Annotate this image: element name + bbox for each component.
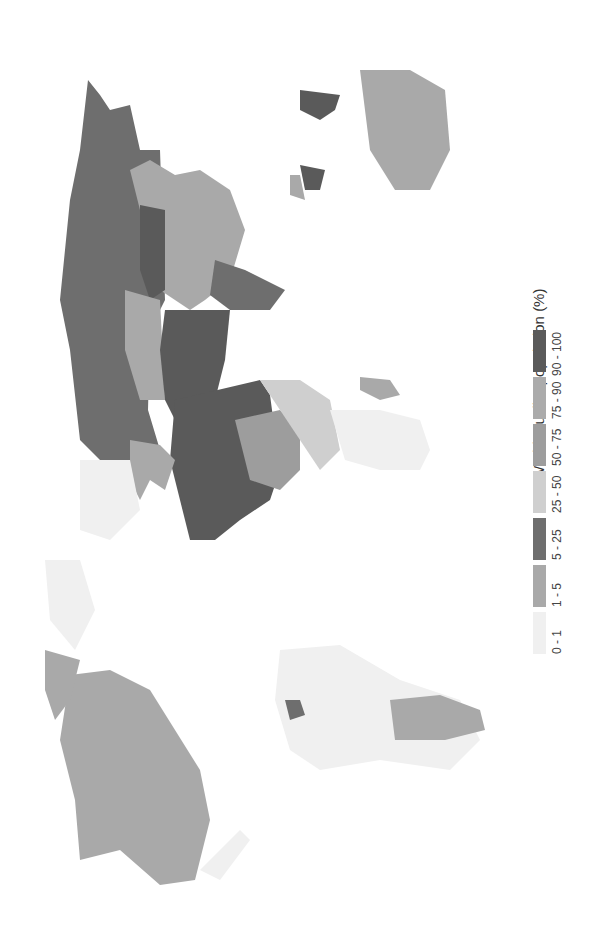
legend-label-4: 50 - 75 bbox=[550, 429, 564, 466]
region-malaysia bbox=[300, 165, 325, 190]
legend-label-6: 90 - 100 bbox=[550, 332, 564, 376]
legend-label-2: 5 - 25 bbox=[550, 529, 564, 560]
region-europe-west bbox=[80, 460, 140, 540]
region-madagascar bbox=[360, 377, 400, 400]
legend-swatch-1 bbox=[533, 565, 546, 607]
legend-swatch-4 bbox=[533, 424, 546, 466]
legend-swatch-2 bbox=[533, 518, 546, 560]
legend-swatch-5 bbox=[533, 377, 546, 419]
legend-swatch-6 bbox=[533, 330, 546, 372]
legend-swatch-3 bbox=[533, 471, 546, 513]
world-map bbox=[0, 0, 613, 944]
region-australia bbox=[360, 70, 450, 190]
legend-label-1: 1 - 5 bbox=[550, 583, 564, 607]
region-india bbox=[210, 260, 285, 310]
region-indonesia bbox=[300, 90, 340, 120]
legend-swatch-0 bbox=[533, 612, 546, 654]
legend-label-0: 0 - 1 bbox=[550, 630, 564, 654]
legend-label-5: 75 - 90 bbox=[550, 382, 564, 419]
region-central-america bbox=[200, 830, 250, 880]
region-europe bbox=[130, 440, 175, 500]
legend-label-3: 25 - 50 bbox=[550, 476, 564, 513]
region-north-america bbox=[60, 670, 210, 885]
region-greenland bbox=[45, 560, 95, 650]
region-southern-africa bbox=[330, 410, 430, 470]
region-argentina bbox=[390, 695, 485, 740]
